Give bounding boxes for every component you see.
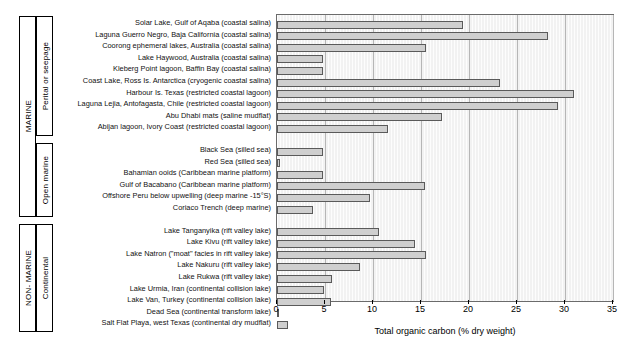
x-axis-title: Total organic carbon (% dry weight) (276, 326, 614, 336)
bar (277, 44, 426, 52)
gridline (469, 15, 470, 301)
plot-area (276, 14, 614, 302)
category-label: Lake Kivu (rift valley lake) (0, 238, 274, 246)
bar (277, 171, 323, 179)
chart-figure: MARINE Perital or seepage Open marine NO… (0, 0, 620, 344)
category-label-column: Solar Lake, Gulf of Aqaba (coastal salin… (0, 0, 274, 290)
bar (277, 240, 415, 248)
category-label: Dead Sea (continental transform lake) (0, 308, 274, 316)
x-axis-tick-label: 5 (321, 304, 326, 314)
gridline (613, 15, 614, 301)
category-label: Lake Haywood, Australia (coastal salina) (0, 54, 274, 62)
x-axis-tick-label: 35 (607, 304, 617, 314)
bar (277, 182, 425, 190)
bar (277, 125, 388, 133)
bar (277, 263, 360, 271)
bar (277, 148, 323, 156)
category-label: Lake Natron ("moat" facies in rift valle… (0, 250, 274, 258)
category-label: Harbour Is. Texas (restricted coastal la… (0, 89, 274, 97)
category-label: Gulf of Bacabano (Caribbean marine platf… (0, 181, 274, 189)
category-label: Coorong ephemeral lakes, Australia (coas… (0, 42, 274, 50)
x-axis-tick-label: 25 (511, 304, 521, 314)
bar (277, 159, 280, 167)
category-label: Bahamian ooids (Caribbean marine platfor… (0, 169, 274, 177)
x-axis-tick-label: 10 (367, 304, 377, 314)
x-axis-tick-label: 0 (273, 304, 278, 314)
category-label: Offshore Peru below upwelling (deep mari… (0, 192, 274, 200)
category-label: Solar Lake, Gulf of Aqaba (coastal salin… (0, 19, 274, 27)
bar (277, 251, 426, 259)
category-label: Salt Flat Playa, west Texas (continental… (0, 319, 274, 327)
bar (277, 113, 442, 121)
gridline (517, 15, 518, 301)
category-label: Lake Urmia, Iran (continental collision … (0, 285, 274, 293)
category-label: Laguna Guerro Negro, Baja California (co… (0, 31, 274, 39)
category-label: Abijan lagoon, Ivory Coast (restricted c… (0, 123, 274, 131)
bar (277, 102, 558, 110)
bar (277, 55, 323, 63)
category-label: Kleberg Point lagoon, Baffin Bay (coasta… (0, 65, 274, 73)
x-axis: 05101520253035 (276, 300, 614, 344)
category-label: Lake Van, Turkey (continental collision … (0, 296, 274, 304)
bar (277, 275, 332, 283)
bar (277, 79, 500, 87)
bar (277, 194, 370, 202)
bar (277, 206, 313, 214)
bar (277, 32, 548, 40)
bar (277, 21, 463, 29)
category-label: Abu Dhabi mats (saline mudflat) (0, 112, 274, 120)
x-axis-tick-label: 30 (559, 304, 569, 314)
bar (277, 90, 574, 98)
category-label: Lake Tanganyika (rift valley lake) (0, 227, 274, 235)
category-label: Laguna Lejia, Antofagasta, Chile (restri… (0, 100, 274, 108)
bar (277, 286, 324, 294)
x-axis-tick-label: 15 (415, 304, 425, 314)
category-label: Coast Lake, Ross Is. Antarctica (cryogen… (0, 77, 274, 85)
category-label: Red Sea (silled sea) (0, 158, 274, 166)
gridline (565, 15, 566, 301)
category-label: Black Sea (silled sea) (0, 146, 274, 154)
category-label: Lake Nakuru (rift valley lake) (0, 261, 274, 269)
x-axis-tick-label: 20 (463, 304, 473, 314)
bar (277, 67, 323, 75)
bar (277, 228, 379, 236)
category-label: Coriaco Trench (deep marine) (0, 204, 274, 212)
category-label: Lake Rukwa (rift valley lake) (0, 273, 274, 281)
